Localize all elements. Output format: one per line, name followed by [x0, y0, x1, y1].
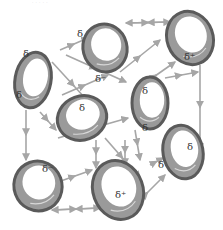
ring-center-right: δδ [132, 77, 168, 133]
arrow-midhead [71, 44, 74, 45]
charge-label: δ⁺ [115, 189, 126, 200]
charge-label: δ⁻ [95, 73, 106, 84]
ring-bottom-center: δ⁺ [84, 153, 152, 226]
charge-label: δ [187, 141, 193, 152]
ring-center-left: δ [51, 89, 113, 147]
charge-label: δ [23, 48, 29, 59]
charge-label: δ [142, 122, 148, 133]
ring-top-center: δδ⁻ [77, 19, 132, 84]
dipole-network-diagram: δδ⁻δ⁺δδδδδδ⁻δ⁺δδ [0, 0, 223, 230]
charge-label: δ [77, 28, 83, 39]
arrow-midhead [72, 84, 74, 86]
charge-label: δ⁺ [184, 51, 195, 62]
arrow-midhead [121, 156, 123, 158]
charge-label: δ [79, 102, 85, 113]
ring-top-right: δ⁺ [159, 5, 221, 71]
ring-layer: δδ⁻δ⁺δδδδδδ⁻δ⁺δδ [7, 5, 221, 227]
charge-label: δ⁻ [42, 163, 53, 174]
ring-bottom-left: δ⁻ [7, 154, 69, 217]
arrow-midhead [179, 75, 182, 76]
charge-label: δ [16, 89, 22, 100]
arrow-midhead [138, 56, 140, 58]
arrow-midhead [82, 85, 85, 86]
charge-label: δ [142, 85, 148, 96]
arrow-midhead [154, 162, 157, 163]
ring-left: δδ [10, 48, 55, 111]
arrow-midhead [46, 119, 48, 121]
arrow-midhead [72, 176, 75, 177]
arrow-midhead [145, 193, 147, 195]
charge-label: δ [158, 159, 164, 170]
